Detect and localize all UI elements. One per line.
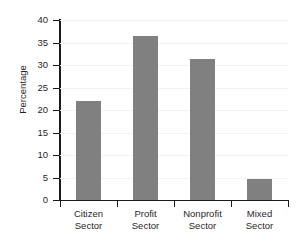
y-axis-tick [53,43,59,44]
y-axis-tick-label: 25 [37,83,48,93]
x-axis-tick [288,200,289,207]
y-axis-tick-label: 20 [37,105,48,115]
bar [190,59,215,200]
bar [76,101,101,200]
x-axis-category-label-line: Sector [225,220,295,232]
gridline [60,20,288,21]
y-axis-tick [53,20,59,21]
y-axis-tick-label: 30 [37,60,48,70]
y-axis-tick-label: 0 [43,195,48,205]
y-axis-tick [53,178,59,179]
y-axis-tick [53,88,59,89]
plot-area [60,20,288,200]
y-axis-tick [53,65,59,66]
y-axis-tick [53,110,59,111]
bar-chart: Percentage 0510152025303540 CitizenSecto… [0,0,300,245]
x-axis-tick [117,200,118,207]
x-axis-category-label-line: Mixed [225,208,295,220]
bar [133,36,158,200]
y-axis-tick-label: 10 [37,150,48,160]
y-axis-tick [53,133,59,134]
y-axis-tick-label: 15 [37,128,48,138]
x-axis-tick [174,200,175,207]
gridline [60,88,288,89]
gridline [60,65,288,66]
x-axis-tick [231,200,232,207]
y-axis-tick [53,200,59,201]
y-axis-tick-label: 5 [43,173,48,183]
y-axis-tick-label: 35 [37,38,48,48]
gridline [60,43,288,44]
y-axis-label: Percentage [17,50,28,130]
y-axis-tick [53,155,59,156]
x-axis-category-label: MixedSector [225,208,295,232]
bar [247,179,272,200]
y-axis-tick-label: 40 [37,15,48,25]
x-axis-tick [60,200,61,207]
